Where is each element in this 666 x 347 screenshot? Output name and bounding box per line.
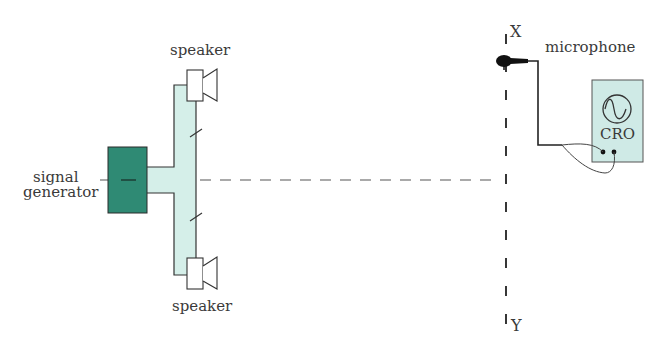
speaker-icon (187, 257, 217, 289)
speaker-icon (187, 69, 217, 101)
point-x-label: X (510, 22, 522, 41)
cro-label: CRO (600, 125, 635, 143)
microphone-label: microphone (545, 38, 636, 56)
cro-oscilloscope (592, 80, 643, 162)
microphone-cable (528, 61, 562, 145)
diagram-canvas: speaker speaker signal generator microph… (0, 0, 666, 347)
point-y-label: Y (510, 316, 522, 335)
speaker-wiring (147, 85, 202, 275)
speaker-top-label: speaker (170, 41, 231, 59)
speaker-bottom-label: speaker (172, 297, 233, 315)
signal-generator-label-2: generator (23, 183, 99, 201)
microphone-icon (496, 55, 528, 70)
